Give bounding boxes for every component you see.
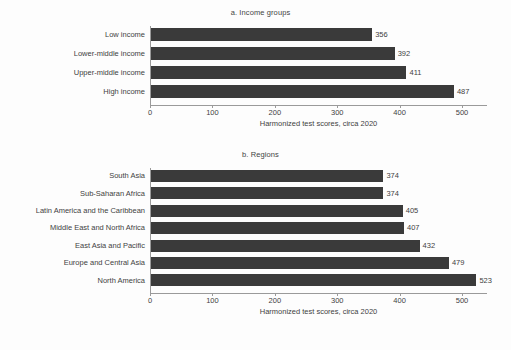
bar: [150, 47, 395, 60]
chart-panel-regions: b. Regions South Asia374Sub-Saharan Afri…: [0, 150, 511, 350]
x-axis-tick-label: 200: [269, 297, 282, 305]
bar-row: Latin America and the Caribbean405: [150, 205, 487, 217]
x-axis-title: Harmonized test scores, circa 2020: [150, 307, 487, 316]
category-label: Low income: [105, 31, 145, 39]
bar: [150, 28, 372, 41]
category-label: South Asia: [109, 172, 145, 180]
panel-b-title: b. Regions: [0, 150, 511, 159]
x-axis-line: [150, 105, 487, 106]
bar-value-label: 374: [386, 190, 399, 198]
category-label: Lower-middle income: [74, 50, 145, 58]
x-axis-title: Harmonized test scores, circa 2020: [150, 119, 487, 128]
bar: [150, 170, 383, 182]
bar-row: North America523: [150, 274, 487, 286]
x-axis-tick-label: 0: [148, 297, 152, 305]
category-label: Middle East and North Africa: [50, 224, 145, 232]
bar-row: Sub-Saharan Africa374: [150, 187, 487, 199]
category-label: High income: [103, 88, 145, 96]
x-axis-tick-label: 100: [206, 109, 219, 117]
bar: [150, 274, 476, 286]
bar-value-label: 487: [457, 88, 470, 96]
category-label: Sub-Saharan Africa: [80, 190, 145, 198]
bar-value-label: 479: [452, 259, 465, 267]
category-label: Upper-middle income: [74, 69, 145, 77]
x-axis-tick-label: 100: [206, 297, 219, 305]
y-axis-line: [150, 168, 151, 293]
bar: [150, 222, 404, 234]
bar-value-label: 432: [423, 242, 436, 250]
bar-value-label: 374: [386, 172, 399, 180]
bar-row: Upper-middle income411: [150, 66, 487, 79]
x-axis-line: [150, 293, 487, 294]
bar: [150, 66, 406, 79]
x-axis-tick-label: 0: [148, 109, 152, 117]
bar-value-label: 407: [407, 224, 420, 232]
y-axis-line: [150, 26, 151, 105]
plot-area-b: South Asia374Sub-Saharan Africa374Latin …: [150, 168, 487, 296]
category-label: Europe and Central Asia: [64, 259, 145, 267]
bar-row: South Asia374: [150, 170, 487, 182]
bar: [150, 85, 454, 98]
bar-row: Lower-middle income392: [150, 47, 487, 60]
bar-value-label: 523: [479, 277, 492, 285]
bar-value-label: 411: [409, 69, 421, 77]
bar-row: Europe and Central Asia479: [150, 257, 487, 269]
bar-row: Low income356: [150, 28, 487, 41]
x-axis-tick-label: 400: [393, 297, 406, 305]
x-axis-tick-label: 300: [331, 109, 344, 117]
x-axis-tick-label: 500: [456, 297, 469, 305]
bar-value-label: 392: [398, 50, 411, 58]
category-label: North America: [97, 277, 145, 285]
cropped-caption-fragment: [0, 0, 511, 6]
category-label: East Asia and Pacific: [75, 242, 145, 250]
category-label: Latin America and the Caribbean: [36, 207, 145, 215]
bar: [150, 240, 420, 252]
bar: [150, 257, 449, 269]
panel-a-title: a. Income groups: [0, 8, 511, 17]
plot-area-a: Low income356Lower-middle income392Upper…: [150, 26, 487, 114]
bar-value-label: 405: [406, 207, 419, 215]
bar-row: High income487: [150, 85, 487, 98]
bar-row: Middle East and North Africa407: [150, 222, 487, 234]
figure-canvas: a. Income groups Low income356Lower-midd…: [0, 0, 511, 350]
x-axis-tick-label: 500: [456, 109, 469, 117]
x-axis-tick-label: 300: [331, 297, 344, 305]
bar-value-label: 356: [375, 31, 388, 39]
bar: [150, 187, 383, 199]
chart-panel-income-groups: a. Income groups Low income356Lower-midd…: [0, 8, 511, 148]
x-axis-tick-label: 200: [269, 109, 282, 117]
bar-row: East Asia and Pacific432: [150, 240, 487, 252]
bar: [150, 205, 403, 217]
x-axis-tick-label: 400: [393, 109, 406, 117]
